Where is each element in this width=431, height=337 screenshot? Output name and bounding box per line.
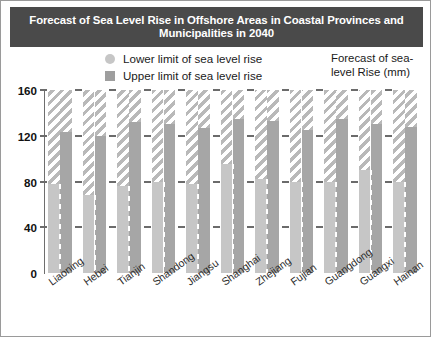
lower-bar-hatch bbox=[324, 90, 336, 182]
plot-area bbox=[45, 90, 425, 273]
upper-bar-hatch bbox=[129, 90, 141, 122]
grid-tick-dash bbox=[385, 135, 392, 137]
grid-tick-dash bbox=[385, 89, 392, 91]
bar-dashed-divider bbox=[301, 182, 303, 274]
bar-dashed-divider bbox=[128, 186, 130, 273]
bar-dashed-divider bbox=[197, 184, 199, 273]
bar-dashed-divider bbox=[163, 182, 165, 274]
grid-tick-dash bbox=[351, 226, 358, 228]
bar-dashed-divider bbox=[94, 195, 96, 273]
grid-tick-dash bbox=[316, 181, 323, 183]
bar-upper-limit bbox=[233, 119, 245, 273]
bar-upper-limit bbox=[336, 119, 348, 273]
bar-upper-limit bbox=[164, 124, 176, 273]
bar-lower-limit bbox=[152, 182, 164, 274]
legend-item-lower: Lower limit of sea level rise bbox=[105, 51, 262, 66]
square-swatch-icon bbox=[105, 71, 115, 81]
chart-frame: Forecast of Sea Level Rise in Offshore A… bbox=[0, 0, 431, 337]
grid-tick-dash bbox=[351, 135, 358, 137]
lower-bar-hatch bbox=[186, 90, 198, 184]
bar-lower-limit bbox=[117, 186, 129, 273]
grid-tick-dash bbox=[109, 135, 116, 137]
bar-lower-limit bbox=[48, 184, 60, 273]
upper-bar-hatch bbox=[198, 90, 210, 128]
chart-legend: Lower limit of sea level rise Upper limi… bbox=[105, 51, 262, 85]
grid-tick-dash bbox=[109, 226, 116, 228]
grid-tick-dash bbox=[282, 181, 289, 183]
grid-tick-dash bbox=[109, 181, 116, 183]
lower-bar-hatch bbox=[48, 90, 60, 184]
upper-bar-hatch bbox=[302, 90, 314, 130]
page-title: Forecast of Sea Level Rise in Offshore A… bbox=[18, 14, 415, 41]
grid-tick-dash bbox=[213, 226, 220, 228]
grid-tick-dash bbox=[247, 226, 254, 228]
bar-upper-limit bbox=[95, 136, 107, 273]
legend-item-upper: Upper limit of sea level rise bbox=[105, 68, 262, 83]
bar-dashed-divider bbox=[335, 182, 337, 274]
upper-bar-hatch bbox=[60, 90, 72, 132]
bar-upper-limit bbox=[129, 122, 141, 273]
lower-bar-hatch bbox=[255, 90, 267, 179]
grid-tick-dash bbox=[213, 89, 220, 91]
grid-tick-dash bbox=[316, 89, 323, 91]
lower-bar-hatch bbox=[83, 90, 95, 195]
grid-tick-dash bbox=[178, 89, 185, 91]
grid-tick-dash bbox=[213, 135, 220, 137]
grid-tick-dash bbox=[75, 89, 82, 91]
y-tick-label: 0 bbox=[7, 267, 37, 280]
legend-label-upper: Upper limit of sea level rise bbox=[123, 69, 262, 82]
lower-bar-hatch bbox=[359, 90, 371, 170]
bar-upper-limit bbox=[302, 130, 314, 273]
grid-tick-dash bbox=[385, 226, 392, 228]
grid-tick-dash bbox=[247, 89, 254, 91]
grid-tick-dash bbox=[178, 135, 185, 137]
y-tick-label: 160 bbox=[7, 84, 37, 97]
grid-tick-dash bbox=[75, 135, 82, 137]
grid-tick-dash bbox=[282, 89, 289, 91]
grid-tick-dash bbox=[282, 135, 289, 137]
y-tick-label: 40 bbox=[7, 221, 37, 234]
bar-dashed-divider bbox=[404, 182, 406, 274]
bar-lower-limit bbox=[290, 182, 302, 274]
upper-bar-hatch bbox=[336, 90, 348, 119]
bar-upper-limit bbox=[198, 128, 210, 273]
grid-tick-dash bbox=[75, 226, 82, 228]
bar-upper-limit bbox=[267, 121, 279, 273]
bar-dashed-divider bbox=[59, 184, 61, 273]
upper-bar-hatch bbox=[267, 90, 279, 121]
lower-bar-hatch bbox=[393, 90, 405, 182]
bar-lower-limit bbox=[221, 164, 233, 273]
grid-tick-dash bbox=[75, 181, 82, 183]
bar-upper-limit bbox=[405, 127, 417, 273]
grid-tick-dash bbox=[213, 181, 220, 183]
lower-bar-hatch bbox=[290, 90, 302, 182]
bar-dashed-divider bbox=[370, 170, 372, 273]
bar-group bbox=[390, 90, 425, 273]
legend-label-lower: Lower limit of sea level rise bbox=[123, 52, 262, 65]
bar-lower-limit bbox=[393, 182, 405, 274]
circle-swatch-icon bbox=[105, 54, 115, 64]
bar-lower-limit bbox=[324, 182, 336, 274]
grid-tick-dash bbox=[351, 181, 358, 183]
grid-tick-dash bbox=[316, 135, 323, 137]
grid-tick-dash bbox=[144, 135, 151, 137]
upper-bar-hatch bbox=[233, 90, 245, 119]
bar-lower-limit bbox=[83, 195, 95, 273]
bar-upper-limit bbox=[371, 124, 383, 273]
grid-tick-dash bbox=[40, 226, 47, 228]
bar-dashed-divider bbox=[232, 164, 234, 273]
bar-dashed-divider bbox=[266, 179, 268, 273]
grid-tick-dash bbox=[178, 181, 185, 183]
grid-tick-dash bbox=[385, 181, 392, 183]
grid-tick-dash bbox=[247, 135, 254, 137]
grid-tick-dash bbox=[40, 135, 47, 137]
grid-tick-dash bbox=[178, 226, 185, 228]
bar-upper-limit bbox=[60, 132, 72, 273]
upper-bar-hatch bbox=[164, 90, 176, 124]
grid-tick-dash bbox=[144, 89, 151, 91]
y-tick-label: 80 bbox=[7, 175, 37, 188]
lower-bar-hatch bbox=[152, 90, 164, 182]
y-tick-label: 120 bbox=[7, 129, 37, 142]
grid-tick-dash bbox=[316, 226, 323, 228]
bar-lower-limit bbox=[186, 184, 198, 273]
